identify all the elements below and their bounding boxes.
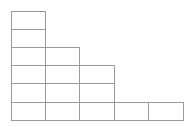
diagram-cell: [45, 102, 79, 120]
diagram-cell: [45, 47, 79, 65]
diagram-cell: [80, 66, 114, 84]
diagram-cell: [11, 102, 45, 120]
diagram-cell: [45, 84, 79, 102]
diagram-cell: [149, 102, 183, 120]
diagram-cell: [114, 102, 148, 120]
diagram-cell: [80, 84, 114, 102]
diagram-cell: [45, 66, 79, 84]
diagram-cell: [11, 84, 45, 102]
diagram-cell: [11, 47, 45, 65]
diagram-cell: [11, 11, 45, 29]
young-diagram-canvas: [0, 0, 192, 127]
diagram-cell: [11, 66, 45, 84]
diagram-cell: [11, 29, 45, 47]
young-diagram-svg: [0, 0, 192, 127]
diagram-cell: [80, 102, 114, 120]
